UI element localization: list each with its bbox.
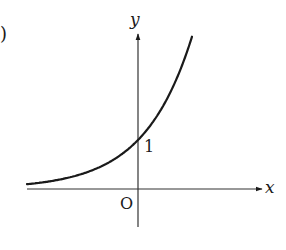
partial-label: ) bbox=[0, 23, 7, 44]
y-intercept-label: 1 bbox=[144, 137, 154, 156]
exponential-graph: ) y x O 1 bbox=[0, 0, 286, 250]
x-axis-label: x bbox=[265, 177, 275, 197]
y-axis-label: y bbox=[129, 9, 140, 29]
origin-label: O bbox=[120, 194, 133, 213]
exponential-curve bbox=[27, 37, 192, 185]
